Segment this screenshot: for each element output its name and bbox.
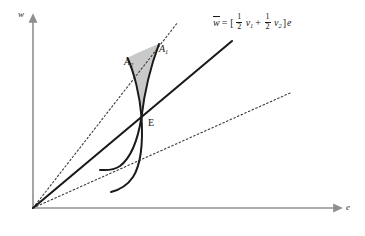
wage-effort-diagram: w e A1 A2 E w = [ 1 2 v1 + 1 2 v2 ] e (0, 0, 365, 236)
point-label-a2-subscript: 2 (130, 61, 133, 68)
point-label-a1: A1 (159, 44, 168, 54)
formula-fraction-one-half-first: 1 2 (236, 13, 242, 32)
formula-lhs: w (213, 16, 220, 28)
formula-var-v2: v2 (272, 17, 282, 28)
formula-equals: = (220, 17, 230, 28)
point-label-a1-subscript: 1 (165, 48, 168, 55)
formula-plus: + (253, 17, 263, 28)
formula-fraction-one-half-second: 1 2 (265, 13, 271, 32)
diagram-canvas (0, 0, 365, 236)
frac2-numerator: 1 (265, 13, 271, 21)
y-axis-label: w (18, 10, 24, 19)
frac2-denominator: 2 (265, 23, 271, 31)
dotted-ray-v2 (33, 93, 290, 208)
formula-var-v1-subscript: 1 (250, 22, 253, 29)
frac1-denominator: 2 (236, 23, 242, 31)
formula-var-v2-subscript: 2 (278, 22, 281, 29)
formula-rhs-var: e (287, 17, 291, 28)
wage-formula: w = [ 1 2 v1 + 1 2 v2 ] e (213, 13, 292, 32)
point-label-a2: A2 (124, 57, 133, 67)
formula-open-bracket: [ (229, 17, 234, 28)
frac1-numerator: 1 (236, 13, 242, 21)
equilibrium-label: E (148, 118, 154, 128)
x-axis-label: e (346, 203, 350, 212)
formula-var-v1: v1 (244, 17, 254, 28)
